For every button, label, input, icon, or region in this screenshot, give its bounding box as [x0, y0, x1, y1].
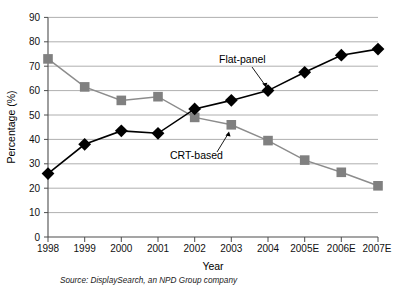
y-tick-marks — [44, 17, 48, 237]
crt-based-label: CRT-based — [170, 149, 223, 161]
gridlines — [48, 17, 378, 212]
y-tick-label-90: 90 — [29, 12, 41, 23]
annotation-flat-panel: Flat-panel — [219, 53, 267, 88]
chart-container: 90 80 70 60 50 40 30 20 10 0 1998 1999 2… — [0, 0, 395, 296]
crt-based-markers — [43, 54, 383, 191]
y-axis-tick-labels: 90 80 70 60 50 40 30 20 10 0 — [29, 12, 41, 243]
annotation-crt-based: CRT-based — [170, 132, 231, 162]
line-chart: 90 80 70 60 50 40 30 20 10 0 1998 1999 2… — [0, 0, 395, 296]
x-axis-title: Year — [202, 260, 224, 272]
crt-based-line — [48, 59, 378, 186]
x-tick-label-1998: 1998 — [37, 243, 60, 254]
y-tick-label-80: 80 — [29, 36, 41, 47]
flat-panel-label: Flat-panel — [219, 53, 266, 65]
series-crt-based — [43, 54, 383, 191]
y-tick-label-10: 10 — [29, 207, 41, 218]
x-tick-label-2000: 2000 — [110, 243, 133, 254]
x-tick-label-2006E: 2006E — [327, 243, 356, 254]
y-tick-label-0: 0 — [34, 232, 40, 243]
x-tick-label-2007E: 2007E — [363, 243, 392, 254]
y-axis-title: Percentage (%) — [5, 91, 17, 164]
x-tick-label-2005E: 2005E — [290, 243, 319, 254]
x-tick-marks — [48, 237, 378, 242]
x-tick-label-2004: 2004 — [257, 243, 280, 254]
source-note: Source: DisplaySearch, an NPD Group comp… — [60, 276, 238, 285]
y-tick-label-50: 50 — [29, 110, 41, 121]
crt-based-arrowhead — [226, 132, 231, 137]
y-tick-label-20: 20 — [29, 183, 41, 194]
x-tick-label-1999: 1999 — [74, 243, 97, 254]
y-tick-label-30: 30 — [29, 158, 41, 169]
x-tick-label-2002: 2002 — [184, 243, 207, 254]
y-tick-label-40: 40 — [29, 134, 41, 145]
y-tick-label-60: 60 — [29, 85, 41, 96]
x-tick-label-2001: 2001 — [147, 243, 170, 254]
x-axis-tick-labels: 1998 1999 2000 2001 2002 2003 2004 2005E… — [37, 243, 392, 254]
y-tick-label-70: 70 — [29, 61, 41, 72]
x-tick-label-2003: 2003 — [220, 243, 243, 254]
